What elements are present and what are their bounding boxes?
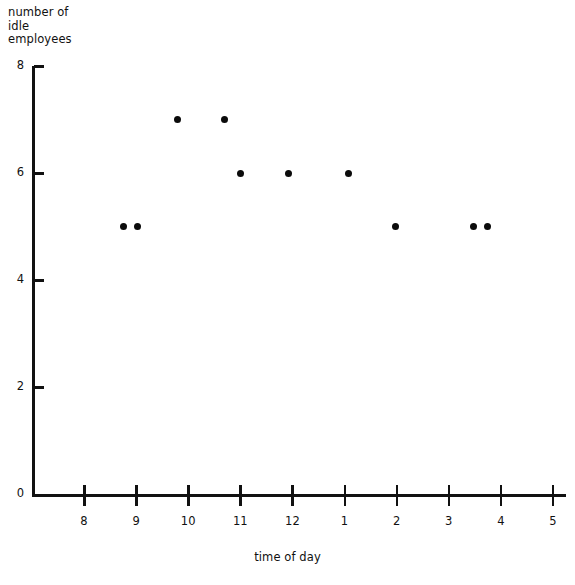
x-tick: [344, 497, 347, 506]
x-tick: [552, 497, 555, 506]
x-tick: [552, 485, 555, 494]
x-tick-label: 9: [121, 515, 151, 527]
data-point: [392, 223, 399, 230]
y-tick-label: 6: [4, 166, 24, 178]
data-point: [285, 170, 292, 177]
y-tick-label: 0: [4, 487, 24, 499]
x-tick: [344, 485, 347, 494]
x-tick: [187, 497, 190, 506]
data-point: [221, 116, 228, 123]
x-tick: [448, 497, 451, 506]
y-tick-label: 2: [4, 380, 24, 392]
x-tick: [83, 485, 86, 494]
x-tick: [396, 485, 399, 494]
x-tick: [291, 497, 294, 506]
x-tick-label: 3: [434, 515, 464, 527]
x-tick-label: 2: [382, 515, 412, 527]
x-tick-label: 8: [69, 515, 99, 527]
y-tick: [34, 172, 44, 175]
y-tick: [34, 386, 44, 389]
x-tick-label: 11: [225, 515, 255, 527]
x-tick: [239, 485, 242, 494]
y-tick: [34, 65, 44, 68]
x-tick: [500, 485, 503, 494]
x-tick-label: 10: [173, 515, 203, 527]
scatter-plot-figure: number of idle employees 02468 891011121…: [0, 0, 575, 585]
data-point: [484, 223, 491, 230]
x-tick-label: 12: [277, 515, 307, 527]
data-point: [174, 116, 181, 123]
x-tick: [83, 497, 86, 506]
x-tick: [239, 497, 242, 506]
data-point: [345, 170, 352, 177]
y-tick-label: 8: [4, 59, 24, 71]
x-tick-label: 5: [538, 515, 568, 527]
plot-area: 02468 8910111212345: [0, 0, 575, 585]
x-axis-line: [32, 494, 566, 497]
data-point: [120, 223, 127, 230]
data-point: [134, 223, 141, 230]
x-tick: [135, 485, 138, 494]
x-tick: [500, 497, 503, 506]
y-tick-label: 4: [4, 273, 24, 285]
x-axis-label: time of day: [0, 550, 575, 564]
x-tick: [396, 497, 399, 506]
data-point: [470, 223, 477, 230]
x-tick: [187, 485, 190, 494]
x-tick-label: 4: [486, 515, 516, 527]
y-tick: [34, 279, 44, 282]
x-tick: [135, 497, 138, 506]
x-tick-label: 1: [330, 515, 360, 527]
x-tick: [291, 485, 294, 494]
data-point: [237, 170, 244, 177]
x-tick: [448, 485, 451, 494]
